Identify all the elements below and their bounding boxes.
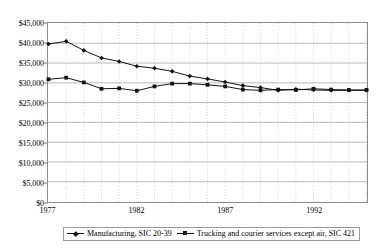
data-point-marker [82, 81, 86, 85]
data-point-marker [46, 42, 51, 47]
legend-label: Manufacturing, SIC 20-39 [87, 229, 172, 238]
data-point-marker [259, 88, 263, 92]
y-axis-tick-label: $35,000 [19, 58, 44, 67]
data-series-layer [48, 23, 367, 202]
data-point-marker [99, 56, 104, 61]
data-point-marker [170, 82, 174, 86]
data-point-marker [188, 82, 192, 86]
line-chart: $45,000$40,000$35,000$30,000$25,000$20,0… [0, 0, 380, 250]
data-point-marker [117, 86, 121, 90]
y-axis-tick-label: $20,000 [19, 118, 44, 127]
data-point-marker [276, 88, 280, 92]
data-point-marker [223, 85, 227, 89]
legend-entry: Manufacturing, SIC 20-39 [67, 229, 172, 238]
data-point-marker [47, 77, 51, 81]
data-point-marker [64, 76, 68, 80]
data-point-marker [152, 66, 157, 71]
data-point-marker [241, 83, 246, 88]
data-point-marker [170, 69, 175, 74]
y-axis-tick-label: $30,000 [19, 78, 44, 87]
x-axis-tick-label: 1977 [40, 206, 56, 216]
data-point-marker [312, 87, 316, 91]
data-point-marker [241, 88, 245, 92]
y-axis-tick-label: $25,000 [19, 98, 44, 107]
x-axis-tick-label: 1992 [306, 206, 322, 216]
y-axis-tick-label: $5,000 [23, 178, 44, 187]
x-axis-tick-label: 1987 [217, 206, 233, 216]
data-point-marker [153, 85, 157, 89]
data-point-marker [206, 83, 210, 87]
data-point-marker [117, 59, 122, 64]
data-point-marker [82, 48, 87, 53]
data-point-marker [329, 88, 333, 92]
legend-point-marker [183, 231, 187, 235]
plot-area [47, 22, 368, 203]
data-point-marker [347, 88, 351, 92]
y-axis-tick-label: $40,000 [19, 38, 44, 47]
data-point-marker [135, 89, 139, 93]
legend-marker-icon [177, 230, 194, 237]
data-point-marker [64, 39, 69, 44]
legend-point-marker [73, 231, 78, 236]
data-point-marker [294, 88, 298, 92]
x-axis-tick-label: 1982 [128, 206, 144, 216]
legend-marker-icon [67, 230, 84, 237]
y-axis: $45,000$40,000$35,000$30,000$25,000$20,0… [0, 22, 44, 203]
data-point-marker [188, 74, 193, 79]
data-point-marker [135, 64, 140, 69]
x-axis: 1977198219871992 [47, 206, 368, 220]
y-axis-tick-label: $15,000 [19, 138, 44, 147]
data-point-marker [365, 88, 369, 92]
data-point-marker [100, 87, 104, 91]
data-point-marker [223, 80, 228, 85]
data-point-marker [205, 77, 210, 82]
chart-legend: Manufacturing, SIC 20-39Trucking and cou… [63, 227, 360, 241]
legend-label: Trucking and courier services except air… [197, 229, 355, 238]
y-axis-tick-label: $45,000 [19, 18, 44, 27]
legend-entry: Trucking and courier services except air… [177, 229, 355, 238]
y-axis-tick-label: $10,000 [19, 158, 44, 167]
